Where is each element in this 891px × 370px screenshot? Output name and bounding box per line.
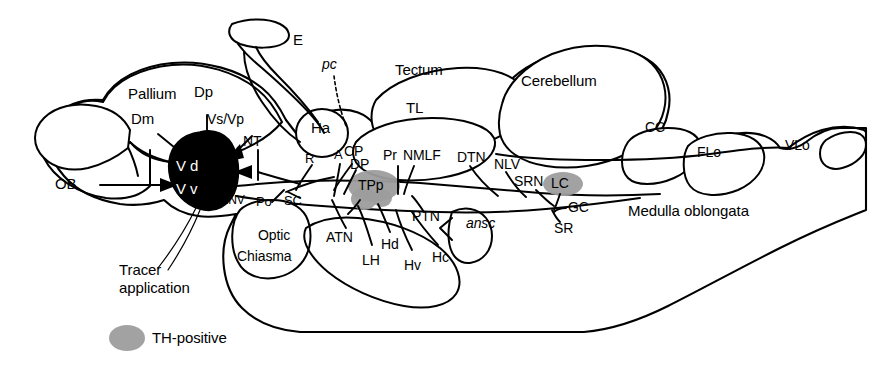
label-r: R — [305, 152, 314, 165]
label-optic: Optic — [258, 228, 290, 242]
label-cc: CC — [645, 120, 665, 134]
label-a: A — [334, 148, 343, 161]
brain-diagram-figure: OB Pallium Dm Dp Vs/Vp NT V d V v End/EN… — [0, 0, 891, 370]
label-vv: V v — [176, 181, 197, 196]
label-hd: Hd — [381, 237, 399, 251]
label-tpp: TPp — [358, 178, 383, 192]
legend-th-positive-swatch — [109, 325, 145, 351]
label-srn: SRN — [514, 174, 543, 188]
label-hc: Hc — [432, 250, 449, 264]
label-lc: LC — [551, 176, 569, 190]
label-dp: Dp — [194, 84, 213, 99]
label-nt: NT — [243, 134, 261, 148]
label-hv: Hv — [404, 258, 421, 272]
brain-schematic-svg — [0, 0, 891, 370]
label-vlo: VLo — [785, 138, 810, 152]
label-ob: OB — [55, 176, 76, 191]
label-gc: GC — [568, 200, 589, 214]
tracer-leader-line-1 — [158, 208, 196, 268]
label-flo: FLo — [697, 145, 721, 159]
label-nmlf: NMLF — [403, 148, 441, 162]
label-pr: Pr — [383, 148, 397, 162]
label-chiasma: Chiasma — [237, 249, 292, 263]
label-pc: pc — [322, 57, 337, 71]
annotation-tracer-line1: Tracer — [119, 261, 161, 279]
label-cerebellum: Cerebellum — [521, 73, 597, 88]
label-lh: LH — [362, 253, 380, 267]
label-medulla: Medulla oblongata — [628, 203, 749, 218]
legend-th-positive-label: TH-positive — [152, 330, 227, 345]
label-dp2: DP — [350, 157, 369, 171]
label-sr: SR — [554, 221, 573, 235]
label-po: Po — [256, 195, 272, 208]
label-ansc: ansc — [466, 216, 495, 230]
label-end-env: End/ENV — [196, 194, 245, 206]
annotation-tracer-line2: application — [119, 279, 190, 297]
label-e: E — [293, 32, 303, 47]
label-atn: ATN — [326, 230, 353, 244]
label-vd: V d — [176, 158, 198, 173]
label-ptn: PTN — [412, 209, 440, 223]
label-dm: Dm — [131, 111, 154, 126]
tracer-leader-line-2 — [168, 210, 200, 270]
label-vs-vp: Vs/Vp — [207, 112, 244, 126]
label-tectum: Tectum — [395, 62, 443, 77]
label-dtn: DTN — [457, 150, 485, 164]
label-pallium: Pallium — [128, 86, 176, 101]
label-nlv: NLV — [494, 157, 520, 171]
label-sc: SC — [284, 194, 302, 207]
label-tl: TL — [406, 100, 423, 115]
label-ha: Ha — [311, 120, 330, 135]
